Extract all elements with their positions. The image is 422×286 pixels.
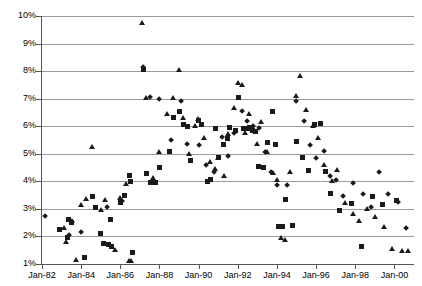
data-point-triangle (293, 93, 299, 98)
data-point-triangle (242, 130, 248, 135)
data-point-square (98, 231, 103, 236)
y-axis-tick-label: 5% (2, 149, 36, 158)
y-axis-tick-label: 2% (2, 231, 36, 240)
data-point-square (82, 255, 87, 260)
data-point-square (90, 194, 95, 199)
y-axis-tick-label: 8% (2, 66, 36, 75)
x-axis-tick (277, 265, 278, 269)
data-point-triangle (61, 225, 67, 230)
data-point-triangle (215, 155, 221, 160)
data-point-triangle (139, 20, 145, 25)
data-point-diamond (178, 98, 184, 104)
gridline (42, 71, 414, 72)
data-point-square (323, 169, 328, 174)
y-axis-line (41, 16, 42, 265)
data-point-triangle (287, 169, 293, 174)
plot-area (42, 16, 414, 264)
y-axis-tick-label: 3% (2, 204, 36, 213)
y-axis-tick (36, 209, 42, 210)
data-point-square (370, 194, 375, 199)
data-point-square (227, 125, 232, 130)
y-axis-tick (36, 71, 42, 72)
x-axis-tick-label: Jan-00 (371, 270, 417, 280)
data-point-triangle (282, 237, 288, 242)
data-point-triangle (186, 151, 192, 156)
gridline (42, 44, 414, 45)
data-point-triangle (180, 115, 186, 120)
data-point-triangle (297, 73, 303, 78)
y-axis-tick-label: 9% (2, 39, 36, 48)
gridline (42, 99, 414, 100)
data-point-diamond (274, 182, 280, 188)
data-point-triangle (389, 246, 395, 251)
data-point-square (167, 149, 172, 154)
x-axis-tick (316, 265, 317, 269)
data-point-triangle (372, 214, 378, 219)
data-point-square (127, 173, 132, 178)
data-point-triangle (78, 202, 84, 207)
y-axis-tick-label: 7% (2, 94, 36, 103)
data-point-triangle (310, 123, 316, 128)
data-point-triangle (73, 257, 79, 262)
data-point-square (359, 244, 364, 249)
data-point-square (283, 197, 288, 202)
data-point-diamond (395, 199, 401, 205)
y-axis-tick-label: 4% (2, 176, 36, 185)
data-point-square (153, 180, 158, 185)
data-point-square (318, 121, 323, 126)
data-point-square (261, 165, 266, 170)
y-axis-tick (36, 126, 42, 127)
data-point-triangle (225, 131, 231, 136)
data-point-diamond (78, 229, 84, 235)
data-point-square (221, 142, 226, 147)
data-point-triangle (102, 197, 108, 202)
data-point-square (349, 201, 354, 206)
x-axis-tick (355, 265, 356, 269)
data-point-diamond (360, 191, 366, 197)
scatter-chart: 1%2%3%4%5%6%7%8%9%10% Jan-82Jan-84Jan-86… (0, 0, 422, 286)
data-point-diamond (284, 182, 290, 188)
x-axis-tick (394, 265, 395, 269)
data-point-triangle (356, 218, 362, 223)
data-point-triangle (164, 111, 170, 116)
data-point-triangle (334, 167, 340, 172)
y-axis-tick (36, 181, 42, 182)
data-point-triangle (315, 135, 321, 140)
data-point-triangle (201, 135, 207, 140)
data-point-triangle (192, 123, 198, 128)
y-axis-tick (36, 44, 42, 45)
data-point-diamond (386, 191, 392, 197)
data-point-diamond (168, 137, 174, 143)
x-axis-tick (199, 265, 200, 269)
data-point-square (290, 223, 295, 228)
data-point-triangle (128, 258, 134, 263)
data-point-diamond (184, 141, 190, 147)
y-axis-tick (36, 154, 42, 155)
gridline (42, 181, 414, 182)
data-point-square (273, 142, 278, 147)
data-point-triangle (381, 224, 387, 229)
data-point-diamond (403, 225, 409, 231)
data-point-triangle (342, 200, 348, 205)
data-point-triangle (156, 149, 162, 154)
data-point-diamond (157, 96, 163, 102)
y-axis-labels: 1%2%3%4%5%6%7%8%9%10% (0, 0, 36, 286)
data-point-diamond (301, 118, 307, 124)
y-axis-tick (36, 99, 42, 100)
data-point-square (130, 250, 135, 255)
data-point-diamond (225, 154, 231, 160)
data-point-square (108, 217, 113, 222)
data-point-triangle (176, 67, 182, 72)
data-point-triangle (112, 247, 118, 252)
data-point-triangle (207, 159, 213, 164)
data-point-square (144, 171, 149, 176)
x-axis-tick (42, 265, 43, 269)
data-point-diamond (231, 130, 237, 136)
y-axis-tick (36, 236, 42, 237)
data-point-square (294, 139, 299, 144)
data-point-triangle (254, 141, 260, 146)
data-point-triangle (303, 107, 309, 112)
data-point-triangle (63, 239, 69, 244)
x-axis-tick (159, 265, 160, 269)
data-point-square (270, 109, 275, 114)
